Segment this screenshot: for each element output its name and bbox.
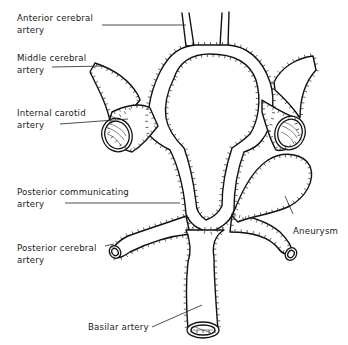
label-line-2: artery	[17, 65, 44, 75]
wall-tick	[176, 175, 179, 176]
wall-tick	[281, 98, 283, 100]
label-line-2: artery	[17, 120, 44, 130]
wall-tick	[251, 51, 253, 53]
wall-tick	[165, 58, 167, 60]
label-anterior-cerebral-artery: Anterior cerebral artery	[17, 13, 93, 35]
label-line-1: Anterior cerebral	[17, 13, 93, 23]
wall-tick	[178, 181, 181, 182]
wall-tick	[274, 76, 277, 78]
label-line-2: artery	[17, 25, 44, 35]
wall-tick	[277, 93, 279, 95]
label-basilar-artery: Basilar artery	[88, 322, 149, 332]
label-middle-cerebral-artery: Middle cerebral artery	[17, 53, 86, 75]
label-aneurysm: Aneurysm	[293, 226, 338, 236]
wall-tick	[306, 85, 309, 86]
wall-tick	[169, 53, 171, 55]
label-line-1: Posterior communicating	[17, 187, 129, 197]
wall-tick	[174, 49, 176, 51]
wall-tick	[304, 91, 307, 92]
wall-tick	[263, 65, 266, 67]
wall-tick	[285, 102, 287, 104]
middle-cerebral-artery-right	[274, 56, 316, 118]
wall-tick	[161, 63, 164, 65]
posterior-cerebral-artery-left	[112, 216, 190, 258]
wall-tick	[312, 75, 314, 77]
wall-tick	[237, 177, 240, 178]
wall-tick	[282, 67, 284, 69]
aneurysm	[232, 154, 312, 222]
wall-tick	[258, 145, 260, 147]
wall-tick	[126, 255, 128, 258]
wall-tick	[148, 244, 149, 247]
label-line-1: Aneurysm	[293, 226, 338, 236]
wall-tick	[115, 241, 117, 243]
label-line-1: Internal carotid	[17, 108, 86, 118]
wall-tick	[262, 140, 264, 142]
wall-tick	[150, 138, 152, 140]
wall-tick	[289, 106, 291, 108]
label-line-2: artery	[17, 255, 44, 265]
wall-tick	[226, 223, 228, 225]
wall-tick	[220, 233, 222, 235]
label-posterior-communicating-artery: Posterior communicating artery	[17, 187, 129, 209]
wall-tick	[175, 169, 178, 170]
wall-tick	[160, 145, 162, 148]
wall-tick	[302, 97, 305, 98]
wall-tick	[179, 187, 182, 188]
wall-tick	[309, 80, 312, 81]
wall-tick	[293, 111, 295, 113]
wall-tick	[278, 71, 280, 73]
label-line-1: Posterior cerebral	[17, 243, 97, 253]
label-line-1: Basilar artery	[88, 322, 149, 332]
circle-of-willis-diagram: Anterior cerebral artery Middle cerebral…	[0, 0, 348, 345]
anterior-cerebral-artery-left	[182, 13, 194, 46]
wall-tick	[166, 148, 167, 151]
wall-tick	[173, 163, 176, 164]
label-internal-carotid-artery: Internal carotid artery	[17, 108, 86, 130]
wall-tick	[155, 142, 157, 144]
label-line-2: artery	[17, 199, 44, 209]
wall-tick	[255, 55, 257, 57]
wall-tick	[238, 172, 241, 173]
label-posterior-cerebral-artery: Posterior cerebral artery	[17, 243, 97, 265]
label-line-1: Middle cerebral	[17, 53, 86, 63]
wall-tick	[121, 237, 123, 239]
anterior-cerebral-artery-right	[220, 12, 229, 46]
wall-tick	[259, 60, 261, 62]
wall-tick	[287, 63, 289, 65]
wall-tick	[316, 70, 319, 71]
